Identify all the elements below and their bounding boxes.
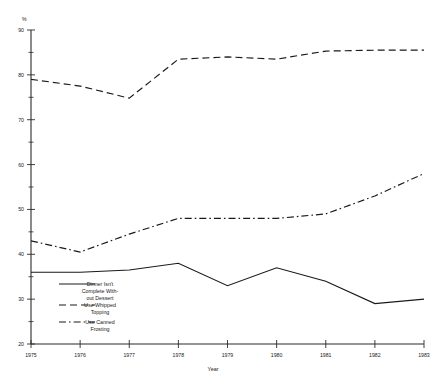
y-tick-label: 40 xyxy=(18,251,24,257)
y-tick-label: 50 xyxy=(18,206,24,212)
y-tick-label: 20 xyxy=(18,341,24,347)
x-tick-label: 1982 xyxy=(369,352,381,358)
x-tick-label: 1979 xyxy=(222,352,234,358)
x-tick-label: 1980 xyxy=(271,352,283,358)
x-axis-title: Year xyxy=(208,366,219,372)
legend-label: Frosting xyxy=(90,326,109,332)
legend-label: Use Canned xyxy=(85,319,114,325)
y-tick-label: 70 xyxy=(18,117,24,123)
x-tick-label: 1975 xyxy=(25,352,37,358)
chart-container: 2030405060708090 19751976197719781979198… xyxy=(0,0,441,384)
y-tick-label: 60 xyxy=(18,162,24,168)
legend-label: Use Whipped xyxy=(84,302,116,308)
legend-label: Topping xyxy=(91,309,110,315)
x-tick-label: 1981 xyxy=(320,352,332,358)
y-axis-unit-label: % xyxy=(22,16,27,22)
data-series-group xyxy=(31,50,424,303)
legend-label: out Dessert xyxy=(86,295,114,301)
x-tick-label: 1983 xyxy=(418,352,430,358)
line-chart: 2030405060708090 19751976197719781979198… xyxy=(0,0,441,384)
y-tick-labels: 2030405060708090 xyxy=(18,27,24,347)
x-tick-label: 1977 xyxy=(123,352,135,358)
legend-label: Dinner Isn't xyxy=(87,281,114,287)
y-tick-label: 80 xyxy=(18,72,24,78)
series-line xyxy=(31,50,424,98)
x-tick-labels: 197519761977197819791980198119821983 xyxy=(25,352,430,358)
series-line xyxy=(31,174,424,253)
y-tick-label: 90 xyxy=(18,27,24,33)
x-tick-label: 1978 xyxy=(173,352,185,358)
chart-legend: Dinner Isn'tComplete With-out DessertUse… xyxy=(59,281,118,332)
x-tick-label: 1976 xyxy=(74,352,86,358)
y-tick-label: 30 xyxy=(18,296,24,302)
legend-label: Complete With- xyxy=(82,288,119,294)
